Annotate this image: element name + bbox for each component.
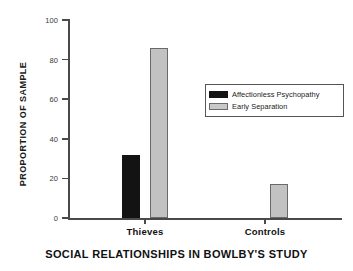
legend-item: Early Separation <box>209 101 339 112</box>
x-tick-label-controls: Controls <box>245 226 286 237</box>
chart-legend: Affectionless Psychopathy Early Separati… <box>205 84 344 117</box>
bar-thieves-affectionless-psychopathy <box>122 155 140 218</box>
bar-thieves-early-separation <box>150 48 168 218</box>
y-tick-label: 40 <box>32 134 58 143</box>
x-tick <box>144 218 146 224</box>
legend-label: Early Separation <box>232 103 287 111</box>
y-axis-title: PROPORTION OF SAMPLE <box>18 39 28 209</box>
y-tick-label: 60 <box>32 95 58 104</box>
chart-title: SOCIAL RELATIONSHIPS IN BOWLBY'S STUDY <box>0 248 353 260</box>
light-swatch-icon <box>209 103 228 110</box>
x-axis-line <box>68 218 342 220</box>
plot-area <box>68 20 340 218</box>
legend-item: Affectionless Psychopathy <box>209 89 339 100</box>
x-tick <box>264 218 266 224</box>
bar-chart: PROPORTION OF SAMPLE 020406080100 Thieve… <box>0 0 353 271</box>
bar-controls-early-separation <box>270 184 288 218</box>
legend-label: Affectionless Psychopathy <box>232 91 319 99</box>
dark-swatch-icon <box>209 91 228 98</box>
x-tick-label-thieves: Thieves <box>127 226 164 237</box>
y-tick-label: 80 <box>32 55 58 64</box>
y-tick-label: 100 <box>32 16 58 25</box>
y-tick-label: 0 <box>32 214 58 223</box>
y-tick-label: 20 <box>32 174 58 183</box>
